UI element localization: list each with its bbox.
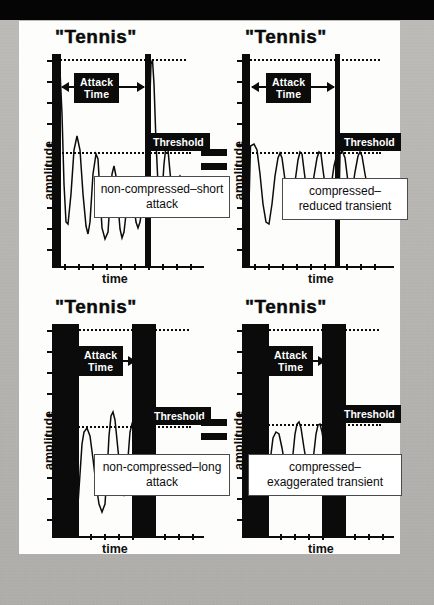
- caption-box-top-right: compressed– reduced transient: [282, 178, 408, 220]
- caption-box-bottom-right: compressed– exaggerated transient: [248, 454, 402, 496]
- x-axis-label: time: [308, 542, 334, 556]
- panel-top-left: "Tennis": [27, 26, 207, 286]
- threshold-tag: Threshold: [338, 405, 401, 423]
- y-axis-label: amplitude: [232, 411, 246, 470]
- x-axis-label: time: [308, 272, 334, 286]
- attack-time-tag: Attack Time: [268, 346, 313, 376]
- caption-line2: exaggerated transient: [267, 475, 383, 489]
- attack-start-bar: [55, 324, 79, 536]
- plot-area-top-left: Attack Time Threshold non-compressed–sho…: [52, 54, 202, 268]
- caption-box-top-left: non-compressed–short attack: [94, 176, 230, 218]
- attack-time-label-line2: Time: [278, 361, 303, 373]
- caption-line1: compressed–: [289, 460, 361, 474]
- attack-arrow-head-right: [128, 356, 136, 366]
- panel-bottom-right: "Tennis": [217, 296, 397, 556]
- attack-arrow-head-right: [318, 356, 326, 366]
- equals-sign-top: [201, 149, 227, 170]
- top-black-band: [0, 0, 434, 20]
- attack-time-label-line2: Time: [84, 88, 109, 100]
- attack-arrow-head-right: [327, 82, 335, 92]
- attack-time-label-line1: Attack: [274, 349, 307, 361]
- attack-time-label-line1: Attack: [272, 76, 305, 88]
- panel-title-top-left: "Tennis": [55, 26, 137, 48]
- attack-end-bar: [335, 54, 340, 266]
- caption-line1: non-compressed–short: [101, 182, 224, 196]
- caption-line2: reduced transient: [299, 199, 392, 213]
- threshold-tag: Threshold: [338, 133, 401, 151]
- plot-area-bottom-left: Attack Time Threshold non-compressed–lon…: [52, 324, 202, 538]
- attack-arrow-head-left: [61, 82, 69, 92]
- attack-arrow-head-right: [137, 82, 145, 92]
- y-axis-label: amplitude: [42, 141, 56, 200]
- panel-top-right: "Tennis": [217, 26, 397, 286]
- caption-line2: attack: [146, 475, 178, 489]
- attack-time-label-line1: Attack: [80, 76, 113, 88]
- book-page: "Tennis": [19, 21, 400, 554]
- attack-arrow-head-left: [251, 82, 259, 92]
- panel-bottom-left: "Tennis": [27, 296, 207, 556]
- equals-bar-lower: [201, 163, 227, 170]
- caption-line1: compressed–: [309, 184, 381, 198]
- y-axis-label: amplitude: [232, 141, 246, 200]
- panel-title-top-right: "Tennis": [245, 26, 327, 48]
- y-axis-label: amplitude: [42, 411, 56, 470]
- equals-sign-bottom: [201, 419, 227, 440]
- equals-bar-upper: [201, 419, 227, 426]
- equals-bar-upper: [201, 149, 227, 156]
- plot-area-bottom-right: Attack Time Threshold compressed– exagge…: [242, 324, 392, 538]
- panel-title-bottom-left: "Tennis": [55, 296, 137, 318]
- panel-title-bottom-right: "Tennis": [245, 296, 327, 318]
- caption-box-bottom-left: non-compressed–long attack: [94, 454, 230, 496]
- x-axis-label: time: [102, 542, 128, 556]
- equals-bar-lower: [201, 433, 227, 440]
- attack-time-label-line1: Attack: [84, 349, 117, 361]
- caption-line1: non-compressed–long: [103, 460, 222, 474]
- plot-area-top-right: Attack Time Threshold compressed– reduce…: [242, 54, 392, 268]
- attack-time-tag: Attack Time: [74, 73, 119, 103]
- caption-line2: attack: [146, 197, 178, 211]
- attack-time-label-line2: Time: [276, 88, 301, 100]
- x-axis-label: time: [102, 272, 128, 286]
- attack-time-tag: Attack Time: [78, 346, 123, 376]
- attack-time-tag: Attack Time: [266, 73, 311, 103]
- attack-time-label-line2: Time: [88, 361, 113, 373]
- attack-start-bar: [245, 324, 269, 536]
- attack-end-bar: [145, 54, 151, 266]
